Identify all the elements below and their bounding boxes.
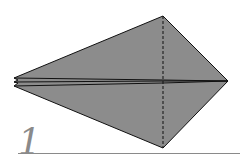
step-divider-line	[18, 153, 240, 154]
step-number: 1	[18, 124, 41, 160]
